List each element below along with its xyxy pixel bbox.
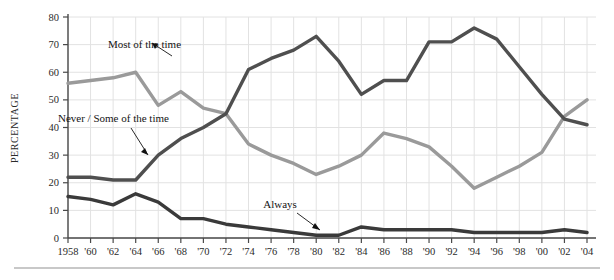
label-never-some-of-the-time: Never / Some of the time [58, 112, 169, 124]
y-tick-label: 30 [49, 150, 60, 161]
x-tick-label: '76 [265, 246, 277, 257]
x-tick-label: '96 [491, 246, 503, 257]
x-tick-label: '04 [581, 246, 594, 257]
x-tick-label: '92 [445, 246, 457, 257]
label-always: Always [263, 198, 297, 210]
x-tick-label: '02 [558, 246, 570, 257]
chart-container: 01020304050607080 1958'60'62'64'66'68'70… [0, 0, 614, 280]
y-tick-label: 70 [49, 39, 60, 50]
x-tick-label: '90 [423, 246, 435, 257]
x-tick-label: '98 [513, 246, 525, 257]
x-tick-label: '60 [84, 246, 96, 257]
x-tick-label: '72 [220, 246, 232, 257]
x-tick-label: '66 [152, 246, 164, 257]
x-tick-label: '64 [129, 246, 142, 257]
y-tick-label: 80 [49, 12, 60, 23]
x-tick-label: '74 [242, 246, 255, 257]
x-tick-label: '88 [400, 246, 412, 257]
x-tick-label: '00 [536, 246, 548, 257]
y-tick-label: 60 [49, 67, 60, 78]
x-tick-label: '68 [175, 246, 187, 257]
x-tick-label: '70 [197, 246, 209, 257]
label-most-of-the-time: Most of the time [108, 38, 181, 50]
y-tick-label: 0 [54, 233, 59, 244]
y-tick-label: 10 [49, 205, 60, 216]
x-tick-label: '80 [310, 246, 322, 257]
y-tick-label: 50 [49, 94, 60, 105]
x-tick-label: '78 [287, 246, 299, 257]
x-tick-label: '82 [333, 246, 345, 257]
x-tick-label: '62 [107, 246, 119, 257]
x-tick-label: '86 [378, 246, 390, 257]
y-axis-title: PERCENTAGE [9, 93, 20, 163]
line-chart: 01020304050607080 1958'60'62'64'66'68'70… [0, 0, 614, 280]
x-tick-label: 1958 [58, 246, 79, 257]
x-tick-label: '94 [468, 246, 481, 257]
y-tick-label: 20 [49, 177, 60, 188]
x-tick-label: '84 [355, 246, 368, 257]
